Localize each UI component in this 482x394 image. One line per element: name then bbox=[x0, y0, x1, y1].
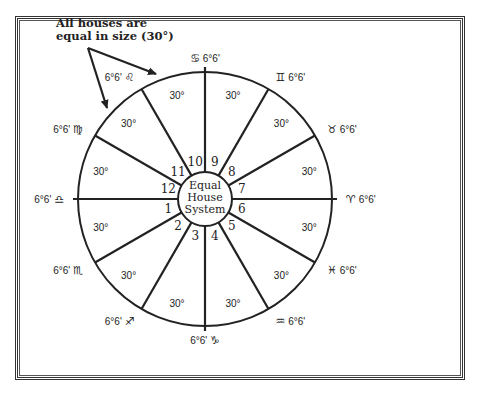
house-number-3: 3 bbox=[191, 229, 199, 243]
cusp-label-cancer: ♋ 6°6' bbox=[190, 52, 220, 65]
house-number-6: 6 bbox=[238, 202, 246, 216]
cusp-line bbox=[219, 222, 269, 309]
cusp-degree: 6°6' bbox=[288, 316, 305, 327]
arrow-icon bbox=[88, 48, 156, 74]
cusp-label-aquarius: ♒ 6°6' bbox=[276, 315, 306, 328]
cusp-degree: 6°6' bbox=[190, 335, 207, 346]
cusp-degree: 6°6' bbox=[105, 316, 122, 327]
capricorn-icon: ♑ bbox=[210, 334, 220, 347]
cusp-degree: 6°6' bbox=[340, 124, 357, 135]
cusp-line bbox=[219, 89, 269, 176]
cusp-line bbox=[228, 213, 315, 263]
house-number-2: 2 bbox=[174, 219, 182, 233]
house-span-label: 30° bbox=[274, 270, 289, 281]
sagittarius-icon: ♐ bbox=[125, 315, 135, 328]
cusp-label-virgo: 6°6' ♍ bbox=[53, 123, 83, 136]
center-label-line-3: System bbox=[185, 203, 226, 216]
libra-icon: ♎ bbox=[54, 193, 64, 206]
cusp-label-gemini: ♊ 6°6' bbox=[276, 71, 306, 84]
cusp-line bbox=[142, 89, 192, 176]
house-number-1: 1 bbox=[164, 202, 172, 216]
cusp-label-sagittarius: 6°6' ♐ bbox=[105, 315, 135, 328]
cusp-degree: 6°6' bbox=[340, 265, 357, 276]
house-span-label: 30° bbox=[93, 166, 108, 177]
house-span-label: 30° bbox=[121, 118, 136, 129]
house-span-label: 30° bbox=[121, 270, 136, 281]
cusp-degree: 6°6' bbox=[105, 72, 122, 83]
aquarius-icon: ♒ bbox=[276, 315, 286, 328]
cusp-line bbox=[95, 213, 182, 263]
cusp-label-pisces: ♓ 6°6' bbox=[327, 264, 357, 277]
house-span-label: 30° bbox=[302, 222, 317, 233]
cusp-label-taurus: ♉ 6°6' bbox=[327, 123, 357, 136]
house-span-label: 30° bbox=[225, 90, 240, 101]
house-span-label: 30° bbox=[274, 118, 289, 129]
house-number-8: 8 bbox=[228, 165, 236, 179]
leo-icon: ♌ bbox=[125, 71, 135, 84]
cusp-label-scorpio: 6°6' ♏ bbox=[53, 264, 83, 277]
house-number-11: 11 bbox=[170, 165, 185, 179]
cusp-line bbox=[95, 136, 182, 186]
house-number-12: 12 bbox=[161, 182, 176, 196]
cusp-degree: 6°6' bbox=[359, 194, 376, 205]
cusp-degree: 6°6' bbox=[53, 265, 70, 276]
gemini-icon: ♊ bbox=[276, 71, 286, 84]
cusp-label-libra: 6°6' ♎ bbox=[34, 193, 64, 206]
cusp-label-leo: 6°6' ♌ bbox=[105, 71, 135, 84]
house-number-4: 4 bbox=[211, 229, 219, 243]
center-label: Equal House System bbox=[185, 179, 226, 216]
cusp-line bbox=[228, 136, 315, 186]
house-number-7: 7 bbox=[238, 182, 246, 196]
cusp-label-capricorn: 6°6' ♑ bbox=[190, 334, 220, 347]
cusp-degree: 6°6' bbox=[34, 194, 51, 205]
cusp-line bbox=[142, 222, 192, 309]
house-number-5: 5 bbox=[228, 219, 236, 233]
house-span-label: 30° bbox=[169, 90, 184, 101]
cusp-degree: 6°6' bbox=[53, 124, 70, 135]
virgo-icon: ♍ bbox=[73, 123, 83, 136]
house-span-label: 30° bbox=[302, 166, 317, 177]
house-span-label: 30° bbox=[169, 298, 184, 309]
cusp-label-aries: ♈ 6°6' bbox=[346, 193, 376, 206]
cusp-degree: 6°6' bbox=[203, 53, 220, 64]
house-number-9: 9 bbox=[211, 155, 219, 169]
cancer-icon: ♋ bbox=[190, 52, 200, 65]
house-span-label: 30° bbox=[93, 222, 108, 233]
scorpio-icon: ♏ bbox=[73, 264, 83, 277]
pisces-icon: ♓ bbox=[327, 264, 337, 277]
house-number-10: 10 bbox=[188, 155, 203, 169]
house-wheel: Equal House System 123456789101112 30°30… bbox=[0, 0, 482, 394]
aries-icon: ♈ bbox=[346, 193, 356, 206]
taurus-icon: ♉ bbox=[327, 123, 337, 136]
house-span-label: 30° bbox=[225, 298, 240, 309]
cusp-degree: 6°6' bbox=[288, 72, 305, 83]
